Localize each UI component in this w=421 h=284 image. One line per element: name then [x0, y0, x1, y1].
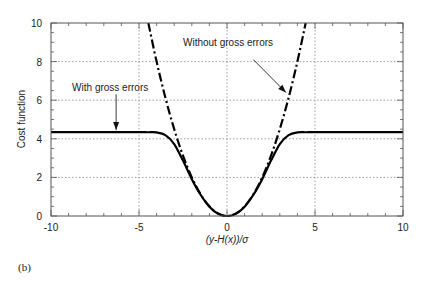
y-tick-label: 4	[36, 134, 42, 145]
grid-lines	[51, 23, 403, 216]
cost-function-chart: With gross errorsWithout gross errors -1…	[0, 0, 421, 284]
tick-labels: -10-505100246810	[31, 18, 409, 233]
y-tick-label: 6	[36, 95, 42, 106]
y-tick-label: 2	[36, 172, 42, 183]
y-tick-label: 8	[36, 57, 42, 68]
arrow-head-icon	[113, 122, 119, 130]
x-tick-label: -10	[44, 222, 59, 233]
panel-label: (b)	[18, 261, 31, 274]
x-tick-label: 10	[397, 222, 409, 233]
x-tick-label: -5	[135, 222, 144, 233]
y-tick-label: 0	[36, 211, 42, 222]
y-tick-label: 10	[31, 18, 43, 29]
x-tick-label: 5	[312, 222, 318, 233]
annotation-label: With gross errors	[72, 82, 148, 93]
x-axis-label-part: (y-	[206, 234, 218, 245]
annotation-label: Without gross errors	[183, 37, 273, 48]
x-tick-label: 0	[224, 222, 230, 233]
x-axis-label: (y-H(x))/σ	[206, 234, 250, 245]
annotations: With gross errorsWithout gross errors	[72, 37, 286, 130]
x-axis-label-part: ))/σ	[232, 234, 249, 245]
y-axis-label: Cost function	[16, 90, 27, 148]
